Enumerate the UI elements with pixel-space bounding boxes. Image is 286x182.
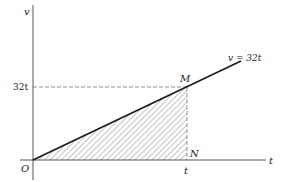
diagram-canvas: v t O 32t t M N v = 32t: [0, 0, 286, 182]
velocity-time-diagram: v t O 32t t M N v = 32t: [0, 0, 286, 182]
point-N-label: N: [189, 148, 200, 159]
origin-label: O: [21, 163, 29, 174]
x-axis-label: t: [269, 155, 274, 166]
y-axis-label: v: [24, 6, 30, 17]
line-equation-label: v = 32t: [228, 53, 262, 63]
point-M-label: M: [179, 73, 191, 84]
x-tick-label-t: t: [184, 165, 189, 176]
y-tick-label-32t: 32t: [13, 82, 28, 92]
